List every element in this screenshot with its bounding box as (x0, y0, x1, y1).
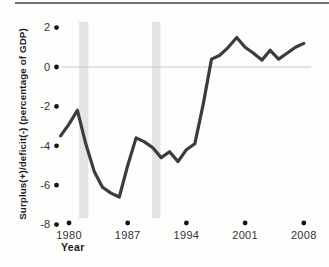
recession-band (152, 22, 160, 218)
y-tick-label: -6 (40, 179, 50, 191)
y-tick-label: 2 (44, 21, 50, 33)
y-tick-label: -4 (40, 140, 50, 152)
x-tick-dot (67, 221, 72, 226)
x-tick-dot (125, 221, 130, 226)
x-tick-label: 2001 (232, 229, 258, 241)
x-axis-title: Year (61, 241, 85, 253)
y-tick-dot (54, 143, 59, 148)
x-tick-label: 2008 (291, 229, 317, 241)
x-tick-label: 1980 (56, 229, 82, 241)
x-tick-label: 1987 (115, 229, 141, 241)
chart-canvas: 20-2-4-6-819801987199420012008 (0, 0, 329, 267)
budget-balance-chart: Surplus(+)/deficit(-) (percentage of GDP… (0, 0, 329, 267)
y-tick-label: -2 (40, 100, 50, 112)
x-tick-dot (301, 221, 306, 226)
budget-balance-line (61, 38, 304, 198)
y-tick-dot (54, 25, 59, 30)
y-tick-dot (54, 183, 59, 188)
y-tick-dot (54, 222, 59, 227)
y-tick-label: 0 (44, 61, 50, 73)
x-tick-label: 1994 (174, 229, 200, 241)
y-tick-dot (54, 65, 59, 70)
y-tick-dot (54, 104, 59, 109)
x-tick-dot (243, 221, 248, 226)
x-tick-dot (184, 221, 189, 226)
y-tick-label: -8 (40, 218, 50, 230)
